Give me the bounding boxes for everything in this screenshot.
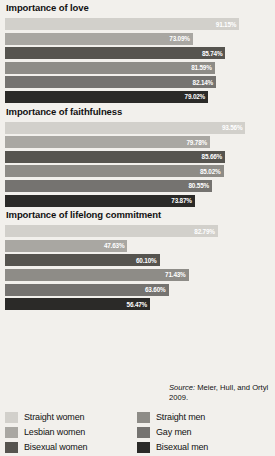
panel-title-love: Importance of love xyxy=(6,2,270,14)
bar-value-label: 85.66% xyxy=(202,153,222,160)
legend-label: Straight women xyxy=(24,412,84,423)
bar-value-label: 56.47% xyxy=(127,301,147,308)
bar: 93.56% xyxy=(5,122,245,134)
bar: 80.55% xyxy=(5,180,212,192)
bar-value-label: 79.02% xyxy=(185,93,205,100)
bar: 91.15% xyxy=(5,18,239,30)
figure-container: Importance of love 91.15%73.09%85.74%81.… xyxy=(0,2,275,456)
bar-value-label: 60.10% xyxy=(136,257,156,264)
legend-item[interactable]: Straight women xyxy=(5,410,137,425)
legend-label: Bisexual men xyxy=(156,442,208,453)
legend-label: Gay men xyxy=(156,427,191,438)
bar-value-label: 71.43% xyxy=(165,271,185,278)
bar-row: 82.14% xyxy=(5,76,270,88)
bar-row: 73.87% xyxy=(5,195,270,207)
bar: 79.02% xyxy=(5,91,208,103)
bar-value-label: 93.56% xyxy=(222,124,242,131)
bar-value-label: 63.60% xyxy=(145,286,165,293)
bar: 85.02% xyxy=(5,165,224,177)
bar-value-label: 47.63% xyxy=(104,242,124,249)
legend-item[interactable]: Gay men xyxy=(137,425,269,440)
legend-swatch-icon xyxy=(5,412,18,423)
bar-row: 71.43% xyxy=(5,269,270,281)
bar-row: 81.59% xyxy=(5,62,270,74)
bar-row: 85.02% xyxy=(5,165,270,177)
bar: 82.79% xyxy=(5,225,218,237)
panel-title-faithfulness: Importance of faithfulness xyxy=(6,106,270,118)
source-label: Source: xyxy=(169,383,195,392)
bar-row: 79.02% xyxy=(5,91,270,103)
bar-value-label: 85.02% xyxy=(200,168,220,175)
bar-row: 93.56% xyxy=(5,122,270,134)
legend-item[interactable]: Bisexual women xyxy=(5,440,137,455)
chart-panel-faithfulness: Importance of faithfulness 93.56%79.78%8… xyxy=(5,106,270,207)
bar: 81.59% xyxy=(5,62,215,74)
legend-label: Bisexual women xyxy=(24,442,87,453)
bar-group-commitment: 82.79%47.63%60.10%71.43%63.60%56.47% xyxy=(5,225,270,310)
bar: 79.78% xyxy=(5,136,210,148)
bar-value-label: 80.55% xyxy=(189,182,209,189)
legend-swatch-icon xyxy=(5,442,18,453)
bar: 85.74% xyxy=(5,47,225,59)
bar-row: 85.74% xyxy=(5,47,270,59)
bar-row: 85.66% xyxy=(5,151,270,163)
legend-item[interactable]: Straight men xyxy=(137,410,269,425)
chart-panel-commitment: Importance of lifelong commitment 82.79%… xyxy=(5,209,270,310)
bar: 47.63% xyxy=(5,240,127,252)
legend-label: Lesbian women xyxy=(24,427,85,438)
legend: Straight womenLesbian womenBisexual wome… xyxy=(5,410,270,455)
bar-row: 56.47% xyxy=(5,298,270,310)
bar-row: 73.09% xyxy=(5,33,270,45)
bar-value-label: 73.09% xyxy=(169,35,189,42)
bar-row: 82.79% xyxy=(5,225,270,237)
bar: 85.66% xyxy=(5,151,225,163)
bar-value-label: 82.14% xyxy=(193,79,213,86)
legend-swatch-icon xyxy=(137,412,150,423)
bar-group-faithfulness: 93.56%79.78%85.66%85.02%80.55%73.87% xyxy=(5,122,270,207)
legend-swatch-icon xyxy=(5,427,18,438)
legend-label: Straight men xyxy=(156,412,205,423)
panel-title-commitment: Importance of lifelong commitment xyxy=(6,209,270,221)
bar: 82.14% xyxy=(5,76,216,88)
legend-column-men: Straight menGay menBisexual men xyxy=(137,410,269,455)
bar: 60.10% xyxy=(5,254,160,266)
bar-row: 47.63% xyxy=(5,240,270,252)
bar-value-label: 81.59% xyxy=(191,64,211,71)
bar-value-label: 73.87% xyxy=(171,197,191,204)
bar-row: 79.78% xyxy=(5,136,270,148)
bar-row: 80.55% xyxy=(5,180,270,192)
bar-row: 91.15% xyxy=(5,18,270,30)
bar-value-label: 82.79% xyxy=(194,228,214,235)
bar-value-label: 91.15% xyxy=(216,21,236,28)
bar-value-label: 85.74% xyxy=(202,50,222,57)
bar: 71.43% xyxy=(5,269,189,281)
chart-panel-love: Importance of love 91.15%73.09%85.74%81.… xyxy=(5,2,270,103)
legend-item[interactable]: Lesbian women xyxy=(5,425,137,440)
legend-column-women: Straight womenLesbian womenBisexual wome… xyxy=(5,410,137,455)
bar-row: 63.60% xyxy=(5,284,270,296)
bar: 73.09% xyxy=(5,33,193,45)
legend-swatch-icon xyxy=(137,427,150,438)
legend-swatch-icon xyxy=(137,442,150,453)
source-citation: Source: Meier, Hull, and Ortyl 2009. xyxy=(169,383,269,402)
bar: 63.60% xyxy=(5,284,169,296)
bar: 56.47% xyxy=(5,298,150,310)
legend-item[interactable]: Bisexual men xyxy=(137,440,269,455)
bar-value-label: 79.78% xyxy=(187,139,207,146)
bar-row: 60.10% xyxy=(5,254,270,266)
bar-group-love: 91.15%73.09%85.74%81.59%82.14%79.02% xyxy=(5,18,270,103)
bar: 73.87% xyxy=(5,195,195,207)
